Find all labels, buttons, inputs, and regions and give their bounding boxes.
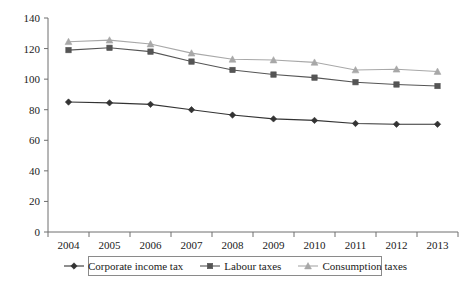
legend-item[interactable]: Labour taxes — [199, 261, 281, 272]
data-point-marker — [106, 100, 112, 106]
series-line — [69, 48, 438, 86]
x-tick-label: 2012 — [386, 239, 408, 250]
y-tick-label: 0 — [35, 226, 41, 238]
data-point-marker — [230, 67, 235, 72]
y-tick-label: 80 — [29, 104, 41, 116]
diamond-marker-icon — [63, 261, 85, 271]
x-tick-label: 2004 — [58, 239, 81, 250]
x-tick-label: 2006 — [140, 239, 163, 250]
line-chart-plot: 020406080100120140 200420052006200720082… — [0, 0, 470, 250]
data-point-marker — [434, 121, 440, 127]
data-point-marker — [435, 83, 440, 88]
legend-item-label: Consumption taxes — [322, 261, 407, 272]
x-tick-label: 2013 — [427, 239, 450, 250]
y-tick-label: 20 — [29, 195, 41, 207]
x-tick-label: 2008 — [222, 239, 245, 250]
data-point-marker — [71, 263, 77, 269]
data-point-marker — [312, 75, 317, 80]
series-labour-taxes — [66, 45, 440, 89]
x-tick-label: 2009 — [263, 239, 286, 250]
x-tick-label: 2005 — [99, 239, 122, 250]
data-point-marker — [311, 117, 317, 123]
data-point-marker — [393, 121, 399, 127]
data-point-marker — [229, 112, 235, 118]
y-tick-label: 120 — [24, 43, 41, 55]
series-corporate-income-tax — [65, 99, 440, 128]
series-line — [69, 40, 438, 71]
data-point-marker — [353, 80, 358, 85]
data-point-marker — [394, 82, 399, 87]
chart-legend: Corporate income taxLabour taxesConsumpt… — [88, 256, 382, 276]
y-tick-label: 40 — [29, 165, 41, 177]
chart-container: 020406080100120140 200420052006200720082… — [0, 0, 470, 286]
legend-item[interactable]: Corporate income tax — [63, 261, 183, 272]
legend-item-label: Labour taxes — [224, 261, 281, 272]
data-point-marker — [270, 116, 276, 122]
series-line — [69, 102, 438, 124]
y-tick-label: 100 — [24, 73, 41, 85]
y-tick-label: 140 — [24, 12, 41, 24]
data-point-marker — [65, 99, 71, 105]
y-axis: 020406080100120140 — [24, 12, 49, 238]
legend-item-label: Corporate income tax — [88, 261, 183, 272]
data-point-marker — [66, 47, 71, 52]
data-point-marker — [208, 263, 213, 268]
data-point-marker — [147, 101, 153, 107]
data-series-group — [65, 37, 441, 128]
x-tick-label: 2011 — [345, 239, 367, 250]
data-point-marker — [107, 45, 112, 50]
data-point-marker — [189, 59, 194, 64]
data-point-marker — [188, 107, 194, 113]
series-consumption-taxes — [65, 37, 441, 75]
square-marker-icon — [199, 261, 221, 271]
data-point-marker — [352, 120, 358, 126]
x-axis: 2004200520062007200820092010201120122013 — [48, 232, 458, 250]
x-tick-label: 2007 — [181, 239, 204, 250]
y-tick-label: 60 — [29, 134, 41, 146]
data-point-marker — [148, 49, 153, 54]
data-point-marker — [271, 72, 276, 77]
x-tick-label: 2010 — [304, 239, 327, 250]
triangle-marker-icon — [297, 261, 319, 271]
legend-item[interactable]: Consumption taxes — [297, 261, 407, 272]
